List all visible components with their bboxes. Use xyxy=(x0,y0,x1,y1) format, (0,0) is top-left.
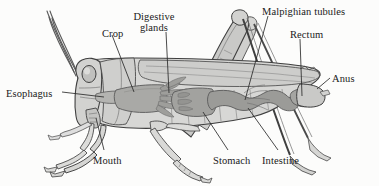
middle-tibia xyxy=(173,160,203,181)
grasshopper-illustration xyxy=(0,0,379,186)
front-leg-upper-far xyxy=(60,122,92,137)
label-malpighian-tubules: Malpighian tubules xyxy=(262,6,345,18)
label-digestive-glands-line2: glands xyxy=(126,22,182,34)
antenna-upper-edge xyxy=(50,11,77,72)
label-crop: Crop xyxy=(102,28,123,40)
compound-eye xyxy=(82,66,96,83)
middle-leg-group xyxy=(150,121,212,183)
middle-femur xyxy=(150,128,181,163)
grasshopper-anatomy-figure: Esophagus Crop Digestive glands Malpighi… xyxy=(0,0,379,186)
label-stomach: Stomach xyxy=(213,155,250,167)
label-intestine: Intestine xyxy=(262,155,299,167)
middle-tarsus xyxy=(200,177,212,183)
front-legs-group xyxy=(44,122,106,177)
front-leg-upper-far-tip xyxy=(48,135,61,140)
label-mouth: Mouth xyxy=(93,155,122,167)
label-anus: Anus xyxy=(332,73,355,85)
hind-femur-near-knee xyxy=(232,10,248,25)
abdomen-tip xyxy=(297,84,325,107)
antennae-group xyxy=(47,11,79,77)
compound-eye-highlight xyxy=(84,68,90,75)
front-leg-far-tarsus xyxy=(44,167,57,172)
leader-anus xyxy=(317,78,330,89)
label-rectum: Rectum xyxy=(290,29,323,41)
label-esophagus: Esophagus xyxy=(6,88,52,100)
hind-tarsus-far xyxy=(308,138,331,161)
label-digestive-glands-line1: Digestive xyxy=(126,11,182,23)
